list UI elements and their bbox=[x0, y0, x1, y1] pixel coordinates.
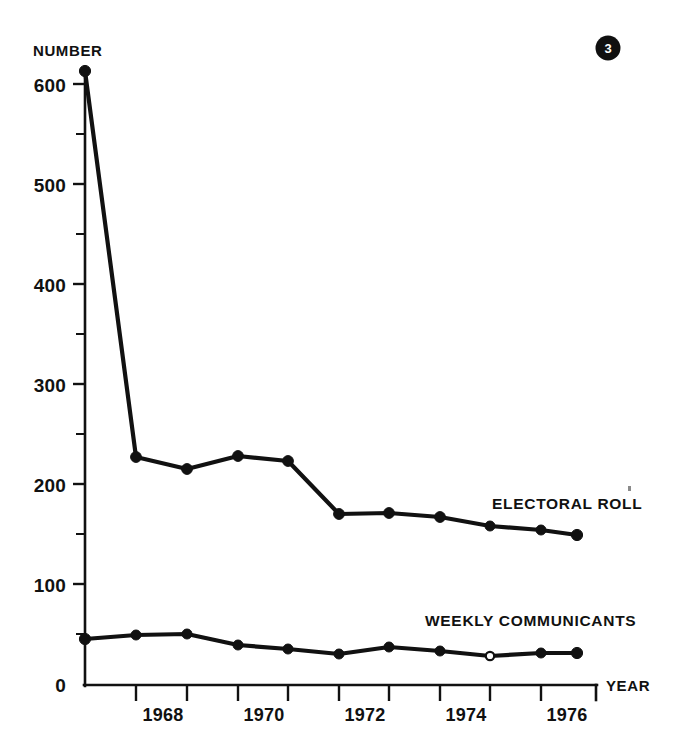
y-tick-label-400: 400 bbox=[34, 275, 66, 296]
weekly-communicants-point-1968 bbox=[131, 630, 141, 640]
electoral-roll-point-1973 bbox=[384, 508, 395, 519]
series-weekly-communicants: WEEKLY COMMUNICANTS bbox=[79, 612, 636, 660]
page-badge-label: 3 bbox=[604, 41, 611, 56]
electoral-roll-point-1971 bbox=[283, 456, 294, 467]
y-axis-tick-labels: 600 500 400 300 200 100 0 bbox=[34, 75, 66, 696]
weekly-communicants-point-1976 bbox=[536, 648, 546, 658]
x-tick-label-1970: 1970 bbox=[244, 705, 285, 725]
x-tick-label-1968: 1968 bbox=[143, 705, 184, 725]
x-axis-ticks bbox=[136, 685, 541, 701]
weekly-communicants-point-1973 bbox=[384, 642, 394, 652]
electoral-roll-point-1968 bbox=[131, 452, 142, 463]
electoral-roll-point-1977 bbox=[571, 529, 582, 540]
y-axis-ticks bbox=[73, 84, 85, 634]
line-chart-svg: 600 500 400 300 200 100 0 1968 1970 1972… bbox=[0, 0, 681, 754]
electoral-roll-point-1967 bbox=[79, 65, 90, 76]
y-tick-label-300: 300 bbox=[34, 375, 66, 396]
axes-group bbox=[84, 70, 597, 700]
weekly-communicants-point-1970 bbox=[233, 640, 243, 650]
x-tick-label-1974: 1974 bbox=[446, 705, 487, 725]
y-tick-label-100: 100 bbox=[34, 575, 66, 596]
electoral-roll-point-1970 bbox=[233, 451, 244, 462]
electoral-roll-point-1975 bbox=[485, 521, 495, 531]
x-tick-label-1976: 1976 bbox=[547, 705, 588, 725]
electoral-roll-point-1976 bbox=[536, 525, 546, 535]
electoral-roll-line bbox=[85, 71, 577, 535]
page-badge: 3 bbox=[596, 36, 621, 61]
scan-speck bbox=[628, 486, 631, 491]
y-axis-title: NUMBER bbox=[33, 42, 102, 59]
weekly-communicants-point-1971 bbox=[283, 644, 293, 654]
weekly-communicants-point-1972 bbox=[334, 649, 344, 659]
weekly-communicants-point-1977 bbox=[571, 647, 582, 658]
weekly-communicants-point-1967 bbox=[79, 633, 90, 644]
series-electoral-roll: ELECTORAL ROLL bbox=[79, 65, 642, 540]
weekly-communicants-line bbox=[85, 634, 577, 656]
electoral-roll-point-1974 bbox=[435, 512, 446, 523]
x-axis-title: YEAR bbox=[606, 677, 650, 694]
electoral-roll-label: ELECTORAL ROLL bbox=[492, 495, 642, 512]
weekly-communicants-point-1969 bbox=[182, 629, 192, 639]
x-axis-tick-labels: 1968 1970 1972 1974 1976 bbox=[143, 705, 588, 725]
y-tick-label-500: 500 bbox=[34, 175, 66, 196]
chart-figure: 600 500 400 300 200 100 0 1968 1970 1972… bbox=[0, 0, 681, 754]
weekly-communicants-point-1975 bbox=[486, 652, 494, 660]
electoral-roll-point-1969 bbox=[182, 464, 193, 475]
x-tick-label-1972: 1972 bbox=[345, 705, 386, 725]
weekly-communicants-point-1974 bbox=[435, 646, 445, 656]
y-tick-label-200: 200 bbox=[34, 475, 66, 496]
y-tick-label-600: 600 bbox=[34, 75, 66, 96]
electoral-roll-point-1972 bbox=[334, 509, 345, 520]
y-tick-label-0: 0 bbox=[55, 675, 66, 696]
weekly-communicants-label: WEEKLY COMMUNICANTS bbox=[425, 612, 636, 629]
